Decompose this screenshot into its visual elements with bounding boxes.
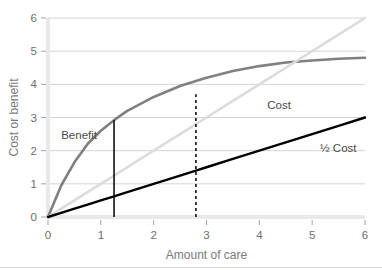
y-tick-label-6: 6 [31,12,37,24]
x-axis-title: Amount of care [166,248,248,262]
y-tick-label-3: 3 [31,112,37,124]
y-tick-label-1: 1 [31,178,37,190]
x-tick-label-1: 1 [98,229,104,241]
x-tick-label-6: 6 [362,229,368,241]
cost-label: Cost [267,99,291,111]
benefit-label: Benefit [61,129,98,141]
y-axis-title: Cost or benefit [7,78,21,157]
y-tick-label-2: 2 [31,145,37,157]
x-tick-label-3: 3 [203,229,209,241]
chart-container: 01234560123456BenefitCost½ CostAmount of… [0,0,382,270]
x-tick-label-2: 2 [150,229,156,241]
y-tick-label-0: 0 [31,211,37,223]
y-tick-label-4: 4 [31,78,38,90]
x-tick-label-4: 4 [256,229,263,241]
y-tick-label-5: 5 [31,45,37,57]
x-tick-label-0: 0 [45,229,51,241]
half-cost-label: ½ Cost [320,142,357,154]
cost-benefit-chart: 01234560123456BenefitCost½ CostAmount of… [0,0,382,270]
x-tick-label-5: 5 [309,229,315,241]
